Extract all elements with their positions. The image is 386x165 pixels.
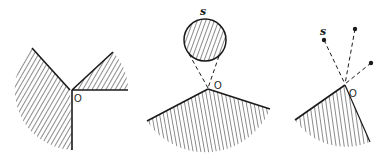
- figure-1: O: [15, 48, 128, 150]
- source-circle: [184, 19, 226, 61]
- origin-label: O: [74, 93, 82, 104]
- diagram-canvas: O s O s O: [0, 0, 386, 165]
- right-wedge: [72, 52, 128, 90]
- origin-label: O: [349, 88, 357, 99]
- dashed-ray-3: [345, 63, 371, 84]
- figure-2: s O: [147, 5, 270, 152]
- figure-3: s O: [295, 25, 373, 147]
- source-label: s: [200, 5, 206, 18]
- source-label: s: [320, 25, 326, 38]
- left-wedge: [15, 48, 72, 150]
- sector: [147, 89, 270, 152]
- dashed-ray-1: [324, 40, 345, 84]
- dashed-ray-2: [345, 29, 355, 84]
- origin-label: O: [214, 80, 222, 91]
